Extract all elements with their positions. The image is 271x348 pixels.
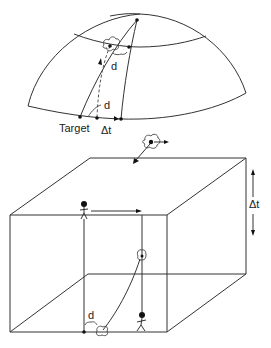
person-walking-icon: [137, 312, 146, 331]
label-d-lower: d: [104, 99, 110, 111]
projected-point: [95, 116, 99, 120]
connector-point: [149, 140, 153, 144]
cloud-in-cube-point: [141, 255, 144, 258]
diagram-canvas: d d Target Δt: [0, 0, 271, 348]
origin-point: [82, 330, 86, 334]
cloud-bottom-icon: [96, 326, 107, 335]
arrow-down-icon-2: [251, 230, 255, 236]
label-target: Target: [59, 122, 90, 134]
meridian-arrow-icon: [98, 58, 102, 65]
meridian-right: [121, 20, 137, 119]
movement-arrow-icon: [136, 209, 142, 213]
label-d-upper: d: [111, 60, 117, 72]
pole-point: [135, 18, 139, 22]
target-point: [78, 115, 82, 119]
distance-bracket-upper: [113, 52, 127, 55]
label-delta-t-top: Δt: [101, 124, 111, 136]
label-delta-t-cube: Δt: [249, 198, 259, 210]
cube-top-left-edge: [10, 158, 90, 215]
equator-line: [28, 93, 246, 119]
trajectory-curve: [103, 259, 140, 330]
distance-bracket-cube: [85, 322, 97, 325]
cube-bottom-right-edge: [167, 274, 246, 332]
hemisphere: d d Target Δt: [28, 14, 246, 136]
latitude-line: [74, 34, 206, 47]
cube-top-right-edge: [167, 158, 246, 215]
arrow-down-icon: [133, 158, 139, 164]
cube-bottom-left-edge: [10, 274, 88, 332]
person-top-icon: [80, 201, 88, 219]
space-time-cube: Δt d: [10, 158, 259, 336]
label-d-cube: d: [88, 309, 94, 321]
latitude-point: [127, 45, 131, 49]
arrow-right-icon: [164, 140, 169, 144]
connector: [133, 134, 169, 164]
dome-outline: [28, 14, 246, 106]
arrow-up-icon: [251, 169, 255, 175]
distance-pointer-lower: [88, 105, 101, 117]
cloud-point: [108, 44, 112, 48]
delta-point: [119, 117, 123, 121]
